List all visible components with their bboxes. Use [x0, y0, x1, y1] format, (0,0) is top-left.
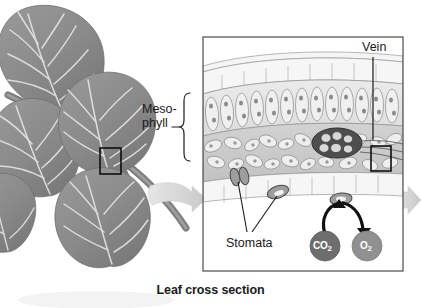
- figure-artwork: [0, 0, 421, 308]
- co2-formula-main: CO: [313, 240, 328, 251]
- mesophyll-label: Meso-phyll: [142, 102, 177, 130]
- co2-molecule-label: CO2: [313, 240, 332, 253]
- mesophyll-label-line1: Meso-: [142, 102, 177, 116]
- mesophyll-label-line2: phyll: [142, 116, 168, 130]
- co2-formula-sub: 2: [328, 244, 332, 253]
- zoom-arrow-icon: [149, 183, 206, 212]
- vein-label: Vein: [362, 40, 386, 54]
- leaf-shape: [55, 168, 150, 268]
- o2-formula-main: O: [360, 240, 368, 251]
- leaf-photosynthesis-figure: Meso-phyll Vein Stomata CO2 O2 Leaf cros…: [0, 0, 421, 308]
- o2-formula-sub: 2: [368, 244, 372, 253]
- o2-molecule-label: O2: [360, 240, 372, 253]
- stomata-label: Stomata: [226, 236, 273, 250]
- figure-caption: Leaf cross section: [0, 283, 421, 297]
- leaf-branch-drawing: [0, 5, 186, 308]
